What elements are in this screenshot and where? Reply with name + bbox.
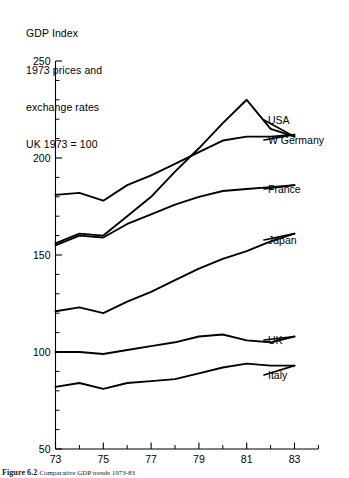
- y-axis-ticks: [56, 61, 63, 449]
- x-axis-ticks: [56, 443, 319, 450]
- figure-gdp-index: GDP Index 1973 prices and exchange rates…: [0, 0, 349, 478]
- figure-caption: Figure 6.2 Comparative GDP trends 1973-8…: [2, 468, 135, 478]
- data-series-group: [56, 100, 295, 389]
- series-label-france: France: [268, 183, 301, 195]
- series-label-usa: USA: [268, 114, 290, 126]
- x-tick-label-79: 79: [193, 453, 205, 465]
- series-line-japan: [56, 234, 295, 314]
- x-tick-label-73: 73: [50, 453, 62, 465]
- x-tick-label-77: 77: [145, 453, 157, 465]
- series-line-usa: [56, 100, 295, 244]
- line-chart-plot: 50100150200250 737577798183 USAW Germany…: [0, 0, 349, 478]
- y-axis-tick-labels: 50100150200250: [33, 55, 51, 455]
- y-tick-label-100: 100: [33, 346, 51, 358]
- series-label-italy: Italy: [268, 369, 288, 381]
- y-tick-label-250: 250: [33, 55, 51, 67]
- x-axis-tick-labels: 737577798183: [50, 453, 301, 465]
- x-tick-label-81: 81: [241, 453, 253, 465]
- series-line-italy: [56, 364, 295, 389]
- series-labels-group: USAW GermanyFranceJapanUKItaly: [268, 114, 325, 381]
- series-label-w-germany: W Germany: [268, 134, 325, 146]
- y-tick-label-200: 200: [33, 152, 51, 164]
- figure-caption-text: Comparative GDP trends 1973-83: [39, 469, 135, 477]
- series-line-w-germany: [56, 135, 295, 201]
- y-tick-label-150: 150: [33, 249, 51, 261]
- series-line-uk: [56, 335, 295, 354]
- figure-caption-label: Figure 6.2: [2, 468, 37, 477]
- series-label-japan: Japan: [268, 234, 297, 246]
- x-tick-label-83: 83: [289, 453, 301, 465]
- series-label-uk: UK: [268, 334, 283, 346]
- series-line-france: [56, 185, 295, 245]
- x-tick-label-75: 75: [97, 453, 109, 465]
